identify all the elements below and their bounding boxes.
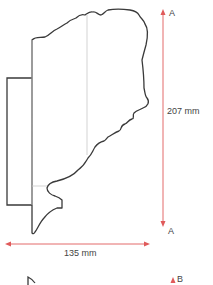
height-dimension-arrow-top-icon: [161, 9, 166, 15]
height-dimension-value: 207 mm: [167, 107, 200, 116]
section-b-arrow-icon: [171, 277, 176, 283]
section-label-a-top: A: [169, 9, 175, 18]
width-dimension-value: 135 mm: [64, 249, 97, 258]
width-dimension-arrow-left-icon: [5, 242, 11, 247]
molding-profile: [32, 9, 148, 233]
next-profile-fragment: [28, 277, 35, 285]
section-label-b: B: [177, 275, 183, 284]
cornice-profile-drawing: [0, 0, 213, 285]
section-label-a-bottom: A: [168, 227, 174, 236]
wall-outline: [7, 78, 32, 205]
height-dimension-arrow-bottom-icon: [161, 221, 166, 227]
width-dimension-arrow-right-icon: [144, 242, 150, 247]
